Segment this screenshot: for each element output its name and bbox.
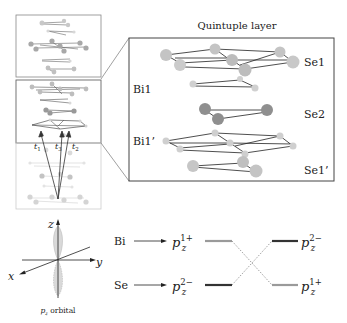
z-axis-arrow-icon [56, 219, 60, 225]
label-se2: Se2 [304, 108, 325, 121]
orbital-caption: pz orbital [40, 306, 76, 316]
layer-bi1 [190, 76, 259, 92]
quintuple-layer-title: Quintuple layer [198, 20, 277, 31]
axis-label-y: y [95, 256, 103, 269]
stack-middle-atoms [30, 82, 89, 137]
energy-level-diagram: Bi p1+z Se p2−z p2−z p1+z [114, 233, 322, 297]
arrow-right-icon [161, 283, 167, 287]
figure-canvas: t1 t3 t2 Quintuple layer Se1 [0, 0, 347, 323]
label-bi1-prime: Bi1’ [133, 135, 155, 148]
stack-top-atoms [28, 19, 88, 75]
zoom-connectors [101, 38, 129, 181]
pz-orbital-diagram: z y x pz orbital [8, 218, 103, 316]
atom-label-bi: Bi [114, 235, 126, 248]
quintuple-layer-panel: Quintuple layer Se1 Bi1 [129, 20, 334, 181]
label-bi1: Bi1 [133, 83, 152, 96]
level-se-p2minus: p2−z [172, 277, 193, 297]
level-bi-p1plus: p1+z [172, 233, 193, 253]
axis-label-z: z [47, 218, 54, 231]
arrow-right-icon [161, 239, 167, 243]
label-se1: Se1 [304, 56, 325, 69]
layer-se1-prime [187, 156, 263, 178]
axis-label-x: x [8, 270, 15, 283]
atom-label-se: Se [114, 279, 128, 292]
hopping-label-t1: t1 [34, 142, 41, 152]
crossing-line-2 [232, 241, 272, 285]
layer-se1 [160, 44, 300, 77]
level-right-p1plus: p1+z [301, 277, 322, 297]
layer-se2 [199, 103, 273, 125]
hopping-label-t2: t2 [72, 142, 79, 152]
crossing-line-1 [232, 241, 272, 285]
layer-bi1-prime [163, 130, 297, 158]
level-right-p2minus: p2−z [301, 233, 322, 253]
x-axis-arrow-icon [19, 271, 26, 275]
label-se1-prime: Se1’ [304, 164, 329, 177]
crystal-stack: t1 t3 t2 [16, 15, 101, 209]
